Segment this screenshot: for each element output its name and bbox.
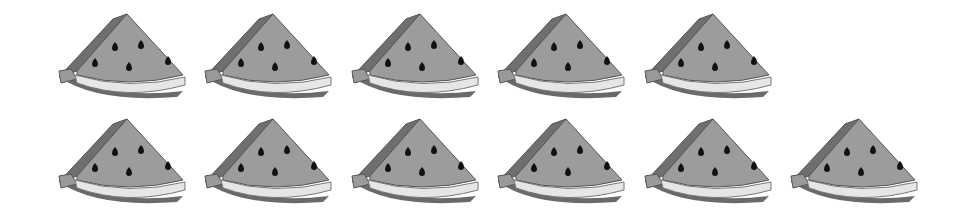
watermelon-slice-icon bbox=[496, 13, 628, 101]
watermelon-slice-icon bbox=[643, 118, 775, 206]
watermelon-slice-icon bbox=[57, 13, 189, 101]
watermelon-slice-icon bbox=[57, 118, 189, 206]
watermelon-slice-icon bbox=[350, 118, 482, 206]
bottom-row: 6 bbox=[0, 118, 963, 208]
watermelon-slice-icon bbox=[350, 13, 482, 101]
watermelon-slice-icon bbox=[203, 118, 335, 206]
top-row: 5 bbox=[0, 13, 963, 103]
watermelon-slice-icon bbox=[643, 13, 775, 101]
watermelon-slice-icon bbox=[789, 118, 921, 206]
watermelon-slice-icon bbox=[496, 118, 628, 206]
watermelon-slice-icon bbox=[203, 13, 335, 101]
